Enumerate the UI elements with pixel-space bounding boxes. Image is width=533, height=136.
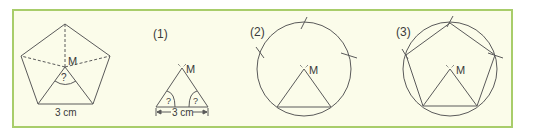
step-2-label: (2) <box>250 25 265 39</box>
step-1-label: (1) <box>153 27 168 41</box>
construction-marks-m <box>446 65 454 68</box>
step-1-angle-left-label: ? <box>166 96 171 106</box>
dashed-radii <box>21 24 110 67</box>
step-1-base-label: 3 cm <box>172 107 194 118</box>
step-2-center-label: M <box>309 64 318 76</box>
compass-mark-top <box>447 16 453 27</box>
pentagon-figure <box>21 24 110 104</box>
construction-marks-m <box>300 65 308 68</box>
step-3-label: (3) <box>396 25 411 39</box>
side-length-label: 3 cm <box>55 107 77 118</box>
angle-question-label: ? <box>61 72 67 83</box>
step-2-construction <box>256 17 357 116</box>
triangle-sides <box>156 68 208 107</box>
radius-left <box>423 69 450 106</box>
step-1-angle-right-label: ? <box>193 96 198 106</box>
step-1-center-label: M <box>186 63 195 75</box>
triangle-sides <box>277 69 331 107</box>
compass-mark-left <box>256 47 264 58</box>
center-label-m: M <box>68 55 77 67</box>
construction-marks-m <box>178 64 186 67</box>
step-3-construction <box>402 16 503 116</box>
step-3-center-label: M <box>456 64 465 76</box>
inscribed-pentagon <box>406 23 495 106</box>
compass-mark-top <box>301 17 307 29</box>
construction-diagram: M ? 3 cm (1) M ? ? 3 cm (2) <box>0 0 533 136</box>
radius-right <box>65 67 93 104</box>
